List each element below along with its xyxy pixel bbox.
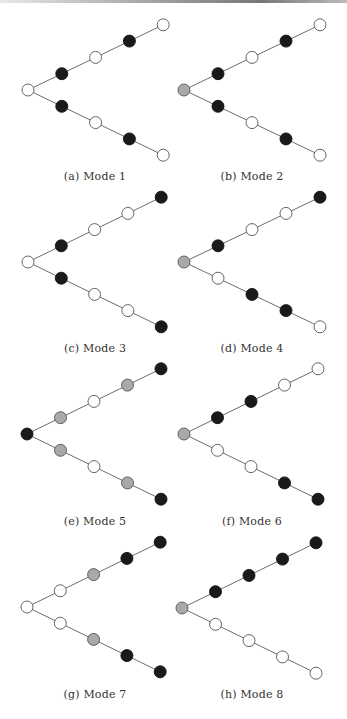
- upper-node-2-white: [246, 51, 258, 63]
- upper-node-3-gray: [122, 379, 134, 391]
- caption-mode-2: (b) Mode 2: [220, 170, 283, 183]
- lower-node-2-white: [88, 461, 100, 473]
- caption-mode-1: (a) Mode 1: [64, 170, 127, 183]
- upper-node-2-black: [245, 395, 257, 407]
- lower-node-2-white: [245, 461, 257, 473]
- panel-mode-5: [21, 363, 167, 505]
- upper-node-3-black: [277, 553, 289, 565]
- lower-node-1-white: [54, 617, 66, 629]
- root-node-gray: [178, 256, 190, 268]
- lower-node-3-black: [280, 305, 292, 317]
- caption-mode-5: (e) Mode 5: [64, 515, 127, 528]
- upper-node-4-black: [310, 537, 322, 549]
- lower-node-2-white: [89, 288, 101, 300]
- lower-node-3-white: [122, 305, 134, 317]
- upper-node-1-white: [54, 585, 66, 597]
- upper-node-3-black: [123, 35, 135, 47]
- lower-node-2-white: [243, 635, 255, 647]
- root-node-black: [21, 428, 33, 440]
- upper-node-1-gray: [55, 412, 67, 424]
- upper-node-2-gray: [88, 569, 100, 581]
- upper-node-4-black: [154, 536, 166, 548]
- panel-mode-2: [178, 19, 326, 161]
- panel-mode-3: [22, 191, 167, 333]
- upper-node-1-black: [56, 68, 68, 80]
- lower-node-1-white: [212, 444, 224, 456]
- lower-node-4-black: [154, 666, 166, 678]
- caption-mode-7: (g) Mode 7: [63, 688, 126, 701]
- lower-node-1-white: [210, 618, 222, 630]
- upper-node-4-black: [314, 191, 326, 203]
- upper-node-1-black: [55, 240, 67, 252]
- panel-mode-1: [22, 19, 169, 161]
- upper-node-2-white: [90, 51, 102, 63]
- upper-node-1-black: [212, 68, 224, 80]
- root-node-white: [22, 84, 34, 96]
- panel-mode-6: [178, 363, 324, 505]
- upper-node-3-white: [279, 379, 291, 391]
- upper-node-4-black: [155, 191, 167, 203]
- lower-node-4-black: [155, 493, 167, 505]
- lower-node-1-black: [212, 100, 224, 112]
- root-node-white: [21, 601, 33, 613]
- panel-mode-7: [21, 536, 166, 678]
- lower-node-3-black: [279, 477, 291, 489]
- lower-node-1-white: [212, 272, 224, 284]
- upper-node-3-white: [280, 207, 292, 219]
- upper-node-1-black: [212, 412, 224, 424]
- upper-node-4-white: [312, 363, 324, 375]
- upper-node-3-black: [121, 552, 133, 564]
- lower-node-3-white: [277, 651, 289, 663]
- mode-shapes-figure: [0, 0, 347, 719]
- lower-node-4-white: [157, 149, 169, 161]
- upper-node-4-white: [157, 19, 169, 31]
- lower-node-3-gray: [122, 477, 134, 489]
- lower-node-1-gray: [55, 444, 67, 456]
- lower-node-2-white: [90, 117, 102, 129]
- lower-node-2-black: [246, 288, 258, 300]
- lower-node-1-black: [56, 100, 68, 112]
- lower-node-1-black: [55, 272, 67, 284]
- lower-node-3-black: [121, 650, 133, 662]
- upper-node-2-white: [88, 395, 100, 407]
- lower-node-4-black: [312, 493, 324, 505]
- caption-mode-4: (d) Mode 4: [220, 342, 283, 355]
- root-node-gray: [176, 602, 188, 614]
- upper-node-3-black: [280, 35, 292, 47]
- lower-node-2-white: [246, 117, 258, 129]
- panel-mode-4: [178, 191, 326, 333]
- lower-node-4-white: [314, 149, 326, 161]
- upper-node-2-white: [89, 224, 101, 236]
- lower-node-4-black: [155, 321, 167, 333]
- upper-node-2-black: [243, 569, 255, 581]
- root-node-gray: [178, 84, 190, 96]
- caption-mode-6: (f) Mode 6: [222, 515, 282, 528]
- root-node-gray: [178, 428, 190, 440]
- lower-node-3-black: [123, 133, 135, 145]
- root-node-white: [22, 256, 34, 268]
- caption-mode-8: (h) Mode 8: [220, 688, 283, 701]
- caption-mode-3: (c) Mode 3: [64, 342, 126, 355]
- upper-node-4-white: [314, 19, 326, 31]
- lower-node-2-gray: [88, 633, 100, 645]
- upper-node-3-white: [122, 207, 134, 219]
- upper-node-4-black: [155, 363, 167, 375]
- upper-node-1-black: [212, 240, 224, 252]
- lower-node-4-white: [314, 321, 326, 333]
- lower-node-3-black: [280, 133, 292, 145]
- upper-node-2-white: [246, 224, 258, 236]
- lower-node-4-white: [310, 667, 322, 679]
- upper-node-1-black: [210, 586, 222, 598]
- panel-mode-8: [176, 537, 322, 679]
